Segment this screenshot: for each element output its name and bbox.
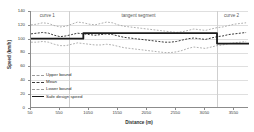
legend-swatch-icon bbox=[32, 79, 44, 85]
legend-swatch-icon bbox=[32, 86, 44, 92]
x-tick-label: 1550 bbox=[104, 111, 130, 115]
x-axis-title: Distance (m) bbox=[30, 120, 248, 125]
legend-item[interactable]: Safe design speed bbox=[32, 93, 128, 100]
x-tick-mark bbox=[30, 108, 31, 110]
x-tick-label: 2050 bbox=[133, 111, 159, 115]
y-tick-label: 20 bbox=[5, 92, 25, 96]
series-line-lower-bound bbox=[31, 41, 246, 52]
x-tick-mark bbox=[204, 108, 205, 110]
y-tick-label: 100 bbox=[5, 37, 25, 41]
x-tick-mark bbox=[233, 108, 234, 110]
chart-legend: Upper boundMeanLower boundSafe design sp… bbox=[32, 71, 128, 100]
y-tick-label: 0 bbox=[5, 106, 25, 110]
x-tick-mark bbox=[59, 108, 60, 110]
legend-item-label: Safe design speed bbox=[46, 94, 82, 99]
x-tick-label: 50 bbox=[17, 111, 43, 115]
x-tick-label: 3050 bbox=[191, 111, 217, 115]
x-tick-mark bbox=[146, 108, 147, 110]
series-line-upper-bound bbox=[31, 22, 246, 32]
y-tick-label: 80 bbox=[5, 50, 25, 54]
legend-item[interactable]: Upper bound bbox=[32, 71, 128, 78]
region-label: tangent segment bbox=[121, 13, 155, 18]
x-tick-label: 550 bbox=[46, 111, 72, 115]
series-line-safe-design-speed bbox=[31, 33, 249, 43]
x-tick-mark bbox=[175, 108, 176, 110]
region-label: curve 2 bbox=[224, 13, 239, 18]
y-tick-label: 40 bbox=[5, 78, 25, 82]
speed-profile-chart: Speed (km/h) 020406080100120140 curve 1t… bbox=[0, 0, 254, 132]
y-tick-label: 60 bbox=[5, 64, 25, 68]
legend-item-label: Mean bbox=[46, 79, 57, 84]
legend-item-label: Upper bound bbox=[46, 72, 71, 77]
legend-swatch-icon bbox=[32, 93, 44, 99]
legend-item[interactable]: Mean bbox=[32, 78, 128, 85]
x-tick-label: 3550 bbox=[220, 111, 246, 115]
x-tick-label: 2550 bbox=[162, 111, 188, 115]
y-tick-label: 140 bbox=[5, 9, 25, 13]
y-tick-label: 120 bbox=[5, 23, 25, 27]
region-label: curve 1 bbox=[40, 13, 55, 18]
legend-item-label: Lower bound bbox=[46, 86, 71, 91]
legend-swatch-icon bbox=[32, 72, 44, 78]
legend-item[interactable]: Lower bound bbox=[32, 85, 128, 92]
x-tick-label: 1050 bbox=[75, 111, 101, 115]
x-tick-mark bbox=[88, 108, 89, 110]
x-tick-mark bbox=[117, 108, 118, 110]
